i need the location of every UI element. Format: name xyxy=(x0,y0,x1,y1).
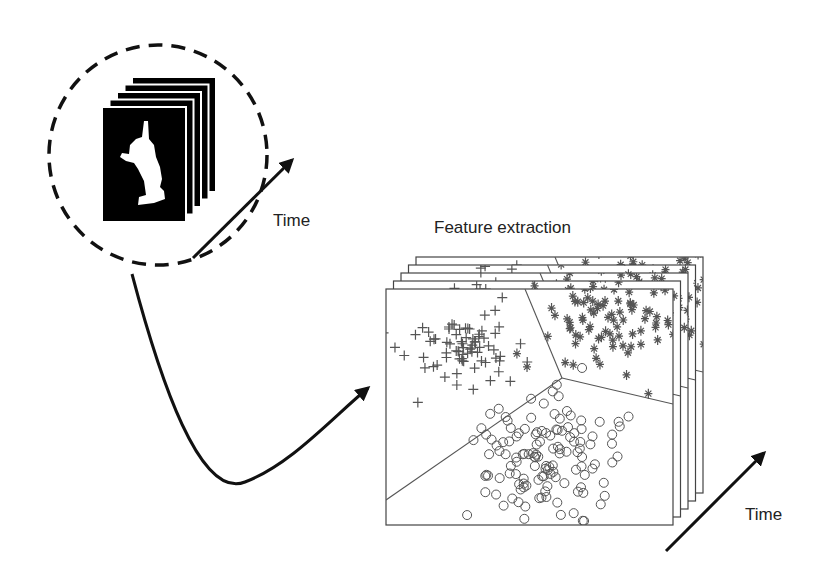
feature-plot-front xyxy=(379,249,712,540)
time-label-bottom: Time xyxy=(745,505,782,525)
curved-arrow xyxy=(132,274,368,484)
feature-extraction-title: Feature extraction xyxy=(434,218,571,238)
diagram-canvas xyxy=(0,0,835,585)
silhouette-frame-stack xyxy=(102,77,216,222)
time-label-top: Time xyxy=(273,211,310,231)
feature-plot-stack xyxy=(379,226,764,540)
